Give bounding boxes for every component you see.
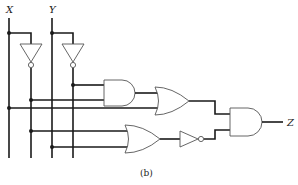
not-gate-2 <box>62 44 84 68</box>
junction-dot <box>7 106 11 110</box>
not-gate-3 <box>180 131 204 147</box>
or-gate-1 <box>155 87 189 115</box>
wire-or1-to-and2 <box>189 101 231 114</box>
and-gate-2 <box>230 108 262 136</box>
junction-dot <box>7 31 11 35</box>
input-label-y: Y <box>49 4 57 15</box>
junction-dot <box>29 98 33 102</box>
logic-circuit-diagram: X Y Z (b) <box>0 0 298 185</box>
tap-y-to-not2 <box>52 33 73 44</box>
tap-x-to-not1 <box>9 33 31 44</box>
or-gate-2 <box>125 125 160 153</box>
junction-dot <box>50 31 54 35</box>
junction-dot <box>29 129 33 133</box>
wire-not3-to-and2 <box>204 130 231 139</box>
input-label-x: X <box>5 4 14 15</box>
junction-dot <box>50 145 54 149</box>
junction-dot <box>71 83 75 87</box>
not-gate-1 <box>20 44 42 68</box>
and-gate-1 <box>104 80 135 106</box>
figure-caption: (b) <box>140 168 153 178</box>
output-label-z: Z <box>286 117 295 128</box>
